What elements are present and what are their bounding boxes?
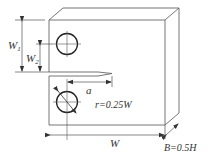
thickness-label: B=0.5H <box>164 142 197 153</box>
width-label: W <box>110 137 120 149</box>
w2-label: W2 <box>26 52 39 66</box>
upper-pin-hole <box>53 31 81 57</box>
lower-pin-hole <box>53 79 81 140</box>
radius-label: r=0.25W <box>95 99 133 110</box>
w1-label: W1 <box>8 39 21 53</box>
thickness-dimension <box>166 124 178 135</box>
specimen-diagram: W1 W2 a r=0.25W W B=0.5H <box>0 0 209 157</box>
a-label: a <box>86 84 92 96</box>
diagram-svg: W1 W2 a r=0.25W W B=0.5H <box>0 0 209 157</box>
w-dimensions <box>15 20 53 72</box>
